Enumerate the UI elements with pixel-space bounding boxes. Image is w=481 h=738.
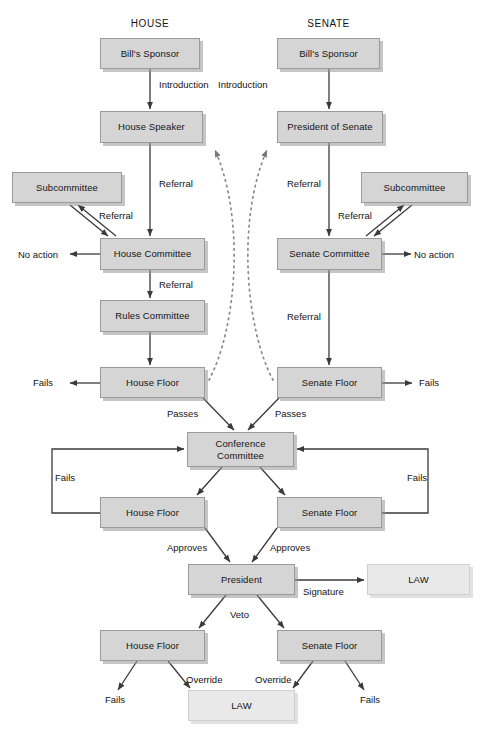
edge-label-veto: Veto [230,609,249,620]
edge-house-floor3-fails [118,661,137,690]
terminal-house-veto-fails: Fails [105,694,125,705]
edge-label-senate-referral-1: Referral [287,178,321,189]
edge-label-house-passes: Passes [167,408,198,419]
edge-label-house-override: Override [186,674,222,685]
edge-veto-to-senate-floor [257,595,284,628]
edge-house-floor-passes [203,398,234,430]
node-senate-committee[interactable]: Senate Committee [277,238,382,270]
node-house-committee[interactable]: House Committee [100,238,205,270]
node-law-override[interactable]: LAW [188,690,295,721]
terminal-senate-veto-fails: Fails [360,694,380,705]
edge-label-house-referral-1: Referral [159,178,193,189]
edge-label-senate-conf-fails: Fails [407,472,427,483]
connector-layer [0,0,481,738]
terminal-senate-no-action: No action [414,249,454,260]
node-senate-sponsor[interactable]: Bill's Sponsor [277,38,380,69]
node-senate-floor-3[interactable]: Senate Floor [277,630,382,661]
edge-senate-floor3-override [293,661,313,688]
terminal-house-no-action: No action [18,249,58,260]
edge-veto-to-house-floor [199,595,226,628]
terminal-senate-floor-fails: Fails [419,377,439,388]
node-house-floor-2[interactable]: House Floor [100,497,205,528]
node-law-signature[interactable]: LAW [367,564,470,595]
edge-senate-subcommittee-to-committee [374,205,412,236]
edge-label-signature: Signature [303,586,344,597]
node-house-floor-1[interactable]: House Floor [100,367,205,398]
edge-house-floor2-approves [205,528,230,562]
edge-conference-to-house-floor [197,467,222,495]
node-house-floor-3[interactable]: House Floor [100,630,205,661]
column-title-senate: SENATE [277,18,380,29]
edge-label-senate-approves: Approves [270,542,310,553]
edge-label-house-referral-rules: Referral [159,279,193,290]
node-senate-floor-2[interactable]: Senate Floor [277,497,382,528]
edge-conference-to-senate-floor [260,467,285,495]
edge-house-floor-to-senate-dotted [209,150,234,380]
node-house-sponsor[interactable]: Bill's Sponsor [100,38,200,69]
node-house-speaker[interactable]: House Speaker [100,111,203,143]
edge-senate-floor-to-house-dotted [248,150,273,380]
column-title-house: HOUSE [100,18,200,29]
edge-label-house-approves: Approves [167,542,207,553]
node-president-of-senate[interactable]: President of Senate [277,111,383,143]
edge-label-house-introduction: Introduction [159,79,209,90]
node-rules-committee[interactable]: Rules Committee [100,300,205,332]
edge-label-senate-sub-referral: Referral [338,210,372,221]
node-senate-floor-1[interactable]: Senate Floor [277,367,382,398]
node-senate-subcommittee[interactable]: Subcommittee [361,172,468,203]
edge-senate-floor3-fails [345,661,364,690]
legislative-process-flowchart: HOUSE SENATE Bill's Sponsor Bill's Spons… [0,0,481,738]
edge-label-house-sub-referral: Referral [99,210,133,221]
node-house-subcommittee[interactable]: Subcommittee [12,172,122,203]
edge-label-senate-override: Override [255,674,291,685]
terminal-house-floor-fails: Fails [33,377,53,388]
edge-label-senate-passes: Passes [275,408,306,419]
node-president[interactable]: President [188,564,295,595]
edge-label-house-conf-fails: Fails [55,472,75,483]
edge-label-senate-referral-floor: Referral [287,311,321,322]
edge-label-senate-introduction: Introduction [218,79,268,90]
node-conference-committee[interactable]: Conference Committee [187,432,294,467]
